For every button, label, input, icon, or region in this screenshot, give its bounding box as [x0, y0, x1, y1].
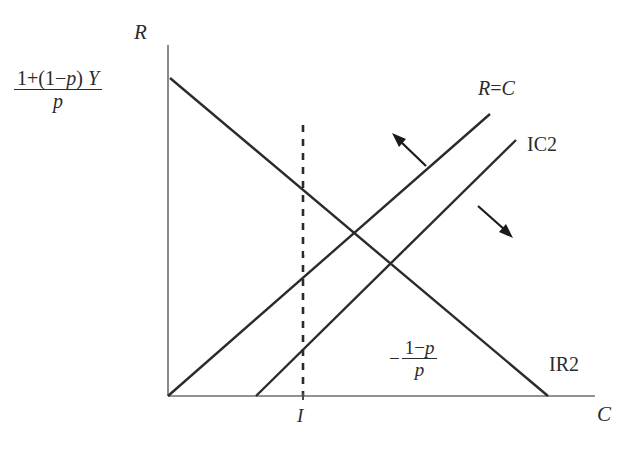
line-ic2 [256, 140, 516, 396]
rc-right-symbol: C [502, 77, 515, 99]
y-intercept-label: 1+(1−p) Y p [14, 68, 102, 111]
x-axis-label: C [597, 404, 611, 425]
line-label-ir2: IR2 [549, 354, 579, 374]
y-axis-label: R [134, 22, 147, 43]
intercept-denominator: p [14, 90, 102, 111]
slope-numerator-pre: 1− [405, 337, 425, 358]
down-right-arrow [478, 206, 513, 238]
economics-diagram: R C 1+(1−p) Y p − 1−p p I R=C [0, 0, 627, 449]
intercept-numerator-var: p [66, 67, 76, 89]
line-rc [168, 114, 490, 396]
rc-equals-symbol: = [490, 77, 501, 99]
line-label-rc: R=C [478, 78, 515, 98]
intercept-numerator-post: ) [76, 67, 88, 89]
intercept-numerator-pre: 1+(1− [17, 67, 66, 89]
slope-denominator: p [402, 359, 438, 379]
slope-numerator-var: p [425, 337, 435, 358]
tick-label-i: I [297, 406, 303, 425]
line-ir2 [170, 78, 548, 396]
line-label-ic2: IC2 [527, 134, 557, 154]
up-left-arrow [392, 133, 426, 166]
intercept-numerator-y: Y [88, 67, 99, 89]
slope-sign: − [389, 349, 402, 368]
rc-left-symbol: R [478, 77, 490, 99]
slope-label: − 1−p p [389, 338, 437, 379]
